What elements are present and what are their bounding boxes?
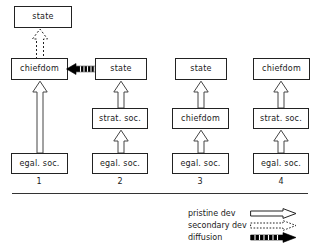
node-label: egal. soc.	[180, 160, 220, 168]
node-label: state	[110, 65, 131, 73]
node-label: state	[32, 13, 53, 21]
node-chiefdom-col4-upper: chiefdom	[253, 58, 310, 80]
node-state-col1-top: state	[14, 6, 72, 28]
edge-pristine-dev-col2-mid-to-upper	[113, 80, 129, 108]
legend-label: pristine dev	[188, 210, 235, 218]
edge-pristine-dev-col3-base-to-mid	[193, 129, 209, 153]
node-strat-soc-col4-mid: strat. soc.	[253, 108, 309, 129]
column-number-4: 4	[261, 178, 301, 186]
node-label: egal. soc.	[100, 160, 140, 168]
edge-secondary-dev-col1	[32, 28, 48, 59]
node-label: egal. soc.	[19, 160, 59, 168]
edge-pristine-dev-col1	[32, 80, 48, 153]
node-label: chiefdom	[262, 65, 301, 73]
node-label: chiefdom	[181, 115, 220, 123]
node-egal-soc-col2-base: egal. soc.	[92, 153, 148, 174]
dotted-arrow-icon	[250, 220, 297, 231]
legend-label: diffusion	[188, 234, 222, 242]
separator-rule	[12, 193, 308, 194]
node-strat-soc-col2-mid: strat. soc.	[92, 108, 148, 129]
legend-label: secondary dev	[188, 222, 247, 230]
hollow-arrow-icon	[250, 208, 297, 219]
node-egal-soc-col1-base: egal. soc.	[11, 153, 68, 174]
node-label: chiefdom	[20, 65, 59, 73]
legend-item-diffusion: diffusion	[188, 232, 222, 243]
column-number-3: 3	[180, 178, 220, 186]
solid-arrow-icon	[250, 232, 297, 243]
node-label: strat. soc.	[99, 115, 141, 123]
legend-item-secondary-dev: secondary dev	[188, 220, 247, 231]
edge-diffusion-col2-to-col1	[66, 63, 97, 75]
node-chiefdom-col3-mid: chiefdom	[172, 108, 229, 129]
column-number-1: 1	[19, 178, 59, 186]
edge-pristine-dev-col3-mid-to-upper	[193, 80, 209, 108]
legend: pristine dev secondary dev diffusion	[188, 208, 313, 244]
node-label: strat. soc.	[260, 115, 302, 123]
node-state-col2-upper: state	[95, 58, 147, 80]
evolution-pathways-diagram: state chiefdom egal. soc. 1 state strat.…	[0, 0, 320, 251]
node-label: state	[190, 65, 211, 73]
node-chiefdom-col1-upper: chiefdom	[11, 58, 68, 80]
legend-item-pristine-dev: pristine dev	[188, 208, 235, 219]
column-number-2: 2	[100, 178, 140, 186]
node-state-col3-upper: state	[175, 58, 227, 80]
node-egal-soc-col3-base: egal. soc.	[172, 153, 229, 174]
node-egal-soc-col4-base: egal. soc.	[253, 153, 309, 174]
edge-pristine-dev-col4-base-to-mid	[273, 129, 289, 153]
edge-pristine-dev-col2-base-to-mid	[113, 129, 129, 153]
node-label: egal. soc.	[261, 160, 301, 168]
edge-pristine-dev-col4-mid-to-upper	[273, 80, 289, 108]
